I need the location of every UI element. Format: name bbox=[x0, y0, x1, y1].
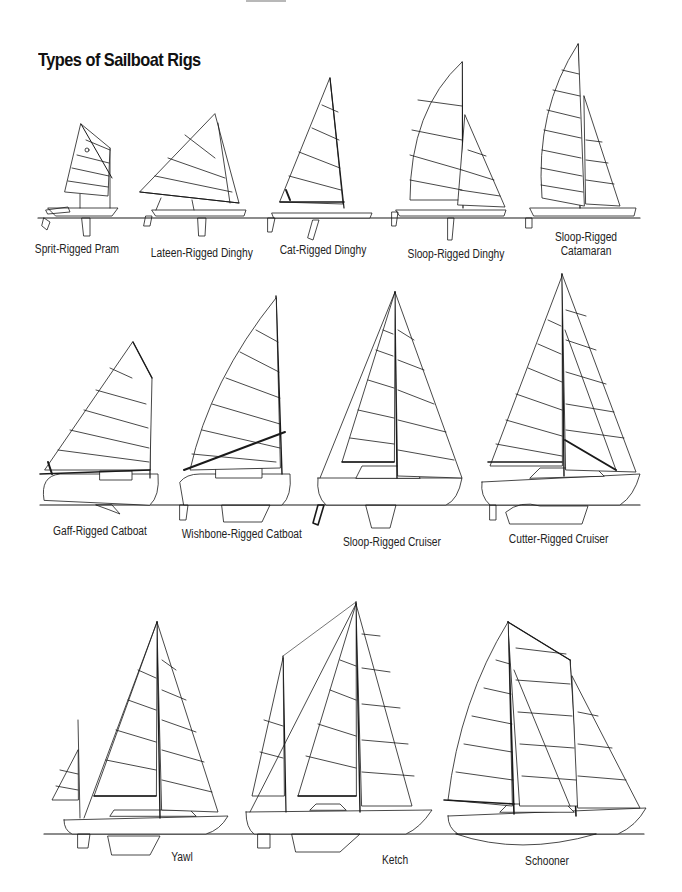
label-sloop-rigged-dinghy: Sloop-Rigged Dinghy bbox=[407, 247, 505, 261]
label-lateen-rigged-dinghy: Lateen-Rigged Dinghy bbox=[151, 246, 249, 260]
label-sprit-rigged-pram: Sprit-Rigged Pram bbox=[32, 242, 122, 256]
sloop-rigged-catamaran-drawing bbox=[526, 44, 636, 228]
schooner-drawing bbox=[444, 622, 646, 845]
label-text: Sloop-Rigged Cruiser bbox=[343, 535, 441, 549]
label-text: Sprit-Rigged Pram bbox=[32, 242, 122, 256]
wishbone-rigged-catboat-drawing bbox=[180, 296, 290, 522]
label-text-line-1: Sloop-Rigged bbox=[545, 230, 627, 244]
label-text: Yawl bbox=[166, 850, 199, 864]
label-text: Ketch bbox=[375, 853, 416, 867]
label-text-line-2: Catamaran bbox=[545, 244, 627, 258]
sloop-rigged-dinghy-drawing bbox=[392, 62, 506, 240]
ketch-drawing bbox=[246, 602, 432, 852]
label-schooner: Schooner bbox=[518, 854, 575, 868]
sprit-rigged-pram-drawing bbox=[42, 124, 118, 236]
label-cutter-rigged-cruiser: Cutter-Rigged Cruiser bbox=[509, 532, 607, 546]
label-text: Schooner bbox=[518, 854, 575, 868]
label-text: Cat-Rigged Dinghy bbox=[278, 243, 368, 257]
label-sloop-rigged-catamaran: Sloop-Rigged Catamaran bbox=[545, 230, 627, 258]
label-text: Cutter-Rigged Cruiser bbox=[509, 532, 607, 546]
gaff-rigged-catboat-drawing bbox=[40, 342, 158, 514]
sailboat-rigs-illustration bbox=[0, 0, 682, 892]
label-text: Gaff-Rigged Catboat bbox=[51, 524, 149, 538]
label-yawl: Yawl bbox=[166, 850, 199, 864]
label-wishbone-rigged-catboat: Wishbone-Rigged Catboat bbox=[182, 527, 289, 541]
label-text: Wishbone-Rigged Catboat bbox=[182, 527, 289, 541]
label-text: Sloop-Rigged Dinghy bbox=[407, 247, 505, 261]
yawl-drawing bbox=[52, 622, 228, 855]
cat-rigged-dinghy-drawing bbox=[268, 78, 372, 240]
label-text: Lateen-Rigged Dinghy bbox=[151, 246, 249, 260]
sloop-rigged-cruiser-drawing bbox=[313, 292, 462, 528]
label-sloop-rigged-cruiser: Sloop-Rigged Cruiser bbox=[343, 535, 441, 549]
label-gaff-rigged-catboat: Gaff-Rigged Catboat bbox=[51, 524, 149, 538]
cutter-rigged-cruiser-drawing bbox=[482, 274, 640, 524]
label-cat-rigged-dinghy: Cat-Rigged Dinghy bbox=[278, 243, 368, 257]
label-ketch: Ketch bbox=[375, 853, 416, 867]
